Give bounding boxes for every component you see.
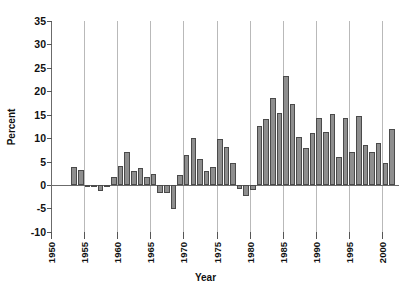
y-axis-tick-label: 15 — [20, 109, 46, 121]
x-axis-tick-label: 1950 — [46, 242, 57, 263]
x-axis-tick-label: 1975 — [212, 242, 223, 263]
y-axis-tick-label: 0 — [20, 179, 46, 191]
x-axis-tick-label: 1980 — [245, 242, 256, 263]
y-axis-tick-label: 20 — [20, 85, 46, 97]
y-axis-tick-label: -10 — [20, 226, 46, 238]
y-axis-tick — [47, 91, 52, 92]
x-axis-tick — [117, 232, 118, 239]
bar — [343, 118, 349, 185]
bar — [230, 163, 236, 185]
y-axis-tick-labels: 35302520151050-5-10 — [16, 0, 46, 293]
bar — [310, 133, 316, 185]
x-axis-tick — [382, 232, 383, 239]
y-axis-tick-label: 5 — [20, 156, 46, 168]
x-axis-tick-label: 1955 — [79, 242, 90, 263]
y-axis-tick — [47, 138, 52, 139]
bar-chart: 1950195519601965197019751980198519901995… — [0, 0, 411, 293]
bar — [217, 139, 223, 185]
bar — [270, 98, 276, 185]
bar — [210, 167, 216, 185]
bar — [356, 116, 362, 185]
y-axis-tick — [47, 232, 52, 233]
bar — [98, 185, 104, 191]
bar — [224, 147, 230, 185]
bar — [237, 185, 243, 189]
bar — [277, 113, 283, 185]
bar — [336, 157, 342, 185]
bar — [243, 185, 249, 196]
gridline-vertical — [382, 21, 383, 232]
plot-area: 1950195519601965197019751980198519901995… — [0, 0, 411, 293]
y-axis-tick-label: 30 — [20, 38, 46, 50]
y-axis-line — [51, 21, 52, 232]
y-axis-tick — [47, 44, 52, 45]
y-axis-title: Percent — [6, 97, 17, 157]
gridline-vertical — [217, 21, 218, 232]
x-axis-tick — [250, 232, 251, 239]
x-axis-tick — [183, 232, 184, 239]
x-axis-tick-label: 1960 — [112, 242, 123, 263]
gridline-vertical — [349, 21, 350, 232]
bar — [316, 118, 322, 185]
y-axis-tick — [47, 115, 52, 116]
bar — [91, 185, 97, 187]
bar — [257, 126, 263, 185]
x-axis-tick-label: 1965 — [145, 242, 156, 263]
bar — [138, 168, 144, 185]
bar — [118, 166, 124, 185]
bar — [85, 185, 91, 187]
bar — [369, 152, 375, 185]
x-axis-title: Year — [0, 272, 411, 283]
gridline-vertical — [250, 21, 251, 232]
gridline-vertical — [183, 21, 184, 232]
bar — [263, 119, 269, 185]
x-axis-tick — [349, 232, 350, 239]
bar — [250, 185, 256, 190]
bar — [78, 170, 84, 185]
x-axis-tick — [283, 232, 284, 239]
bar — [389, 129, 395, 185]
bar — [204, 171, 210, 185]
y-axis-tick-label: 10 — [20, 132, 46, 144]
y-axis-tick — [47, 162, 52, 163]
bar — [164, 185, 170, 193]
y-axis-tick — [47, 208, 52, 209]
bar — [184, 155, 190, 185]
x-axis-tick — [217, 232, 218, 239]
x-axis-tick-label: 1970 — [178, 242, 189, 263]
bar — [323, 132, 329, 185]
bar — [151, 174, 157, 185]
x-axis-tick-label: 1990 — [311, 242, 322, 263]
bar — [283, 76, 289, 185]
bar — [177, 175, 183, 185]
bar — [303, 148, 309, 185]
bar — [330, 114, 336, 185]
bar — [111, 177, 117, 185]
y-axis-tick-label: 35 — [20, 15, 46, 27]
gridline-vertical — [150, 21, 151, 232]
bar — [296, 137, 302, 185]
bar — [376, 143, 382, 185]
x-axis-tick-label: 1995 — [344, 242, 355, 263]
bar — [171, 185, 177, 209]
bar — [104, 185, 110, 187]
gridline-vertical — [117, 21, 118, 232]
bar — [349, 152, 355, 185]
bar — [383, 163, 389, 185]
x-axis-tick-label: 1985 — [278, 242, 289, 263]
x-axis-tick — [84, 232, 85, 239]
y-axis-tick — [47, 21, 52, 22]
y-axis-tick — [47, 68, 52, 69]
bar — [197, 159, 203, 185]
bar — [290, 104, 296, 185]
gridline-vertical — [84, 21, 85, 232]
bar — [124, 152, 130, 185]
y-axis-tick-label: -5 — [20, 202, 46, 214]
y-axis-tick-label: 25 — [20, 62, 46, 74]
bar — [191, 138, 197, 185]
x-axis-tick — [316, 232, 317, 239]
bar — [71, 167, 77, 185]
bar — [144, 177, 150, 185]
bar — [157, 185, 163, 193]
x-axis-tick — [150, 232, 151, 239]
